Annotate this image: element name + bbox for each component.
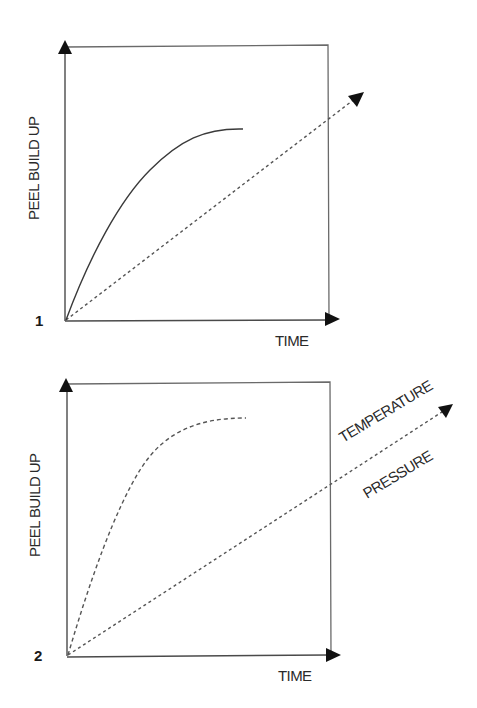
panel-2-peel-curve: [68, 418, 246, 655]
panel-2-diagonal-arrow-icon: [438, 404, 453, 418]
pressure-label: PRESSURE: [360, 447, 436, 502]
panel-2-number-label: 2: [34, 647, 42, 664]
panel-1-diagonal-arrow-icon: [348, 92, 364, 107]
panel-2-diagonal-arrow-line: [68, 410, 445, 655]
panel-2-x-axis-arrow-icon: [326, 648, 341, 662]
panel-2-x-axis-label: TIME: [278, 667, 312, 684]
panel-1-frame: [65, 45, 329, 320]
panel-2: 2 TIME PEEL BUILD UP TEMPERATURE PRESSUR…: [26, 376, 453, 684]
temperature-label: TEMPERATURE: [336, 376, 436, 445]
panel-2-y-axis-label: PEEL BUILD UP: [26, 453, 43, 557]
peel-build-up-diagram: 1 TIME PEEL BUILD UP 2 TIME PEEL BUILD U…: [0, 0, 477, 708]
panel-1-y-axis-label: PEEL BUILD UP: [25, 116, 42, 220]
panel-1-x-axis-label: TIME: [275, 332, 309, 349]
panel-1-x-axis: [65, 320, 327, 321]
panel-1-number-label: 1: [35, 312, 43, 329]
panel-1-peel-curve: [66, 129, 243, 320]
panel-2-y-axis-arrow-icon: [59, 378, 73, 392]
panel-1: 1 TIME PEEL BUILD UP: [25, 40, 364, 349]
panel-2-x-axis: [67, 655, 328, 657]
panel-2-frame: [67, 382, 331, 655]
panel-1-x-axis-arrow-icon: [325, 312, 340, 326]
